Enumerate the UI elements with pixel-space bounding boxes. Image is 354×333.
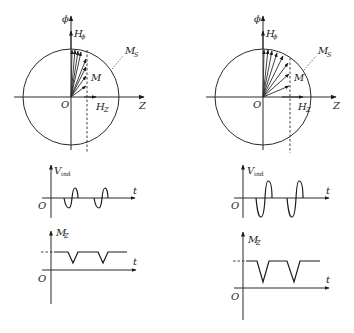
origin-label: O (253, 99, 261, 110)
ms-subscript: S (327, 51, 332, 59)
mz-trace (54, 252, 127, 263)
vind-pulse-1 (256, 181, 272, 217)
right-mz-plot: M Z t O (231, 232, 331, 320)
mz-y-subscript: Z (63, 232, 69, 240)
hz-subscript: Z (103, 106, 109, 114)
vind-y-subscript: ind (61, 170, 71, 177)
vind-t-label: t (326, 185, 331, 196)
vind-t-label: t (133, 185, 138, 196)
hz-subscript: Z (305, 106, 311, 114)
origin-label: O (61, 99, 69, 110)
z-axis-label: Z (332, 100, 341, 111)
mz-origin-label: O (38, 273, 46, 284)
vind-origin-label: O (38, 200, 46, 211)
mz-origin-label: O (231, 291, 239, 302)
mz-trace (246, 261, 320, 282)
left-vector-diagram: ϕ H ϕ M S M O H Z Z (14, 13, 147, 153)
m-label: M (293, 72, 305, 83)
left-vind-plot: V ind t O (38, 165, 138, 218)
h-phi-subscript: ϕ (273, 33, 278, 41)
left-mz-plot: M Z t O (38, 227, 138, 304)
h-phi-subscript: ϕ (81, 33, 86, 41)
right-vind-plot: V ind t O (231, 165, 331, 218)
figure-canvas: ϕ H ϕ M S M O H Z Z V ind t O M Z t O (0, 0, 354, 333)
mz-t-label: t (326, 274, 331, 285)
phi-axis-label: ϕ (62, 13, 69, 24)
z-axis-label: Z (138, 100, 147, 111)
mz-y-subscript: Z (255, 239, 261, 247)
vind-origin-label: O (231, 200, 239, 211)
m-label: M (90, 72, 102, 83)
magnetization-vectors (71, 50, 86, 97)
vind-y-subscript: ind (254, 170, 264, 177)
ms-subscript: S (134, 51, 139, 59)
ms-leader-line (304, 56, 316, 70)
phi-axis-label: ϕ (254, 13, 261, 24)
ms-leader-line (112, 56, 123, 69)
vind-pulse-2 (287, 181, 303, 217)
magnetization-vectors (263, 50, 289, 97)
mz-t-label: t (133, 256, 138, 267)
right-vector-diagram: ϕ H ϕ M S M O H Z Z (206, 13, 341, 153)
